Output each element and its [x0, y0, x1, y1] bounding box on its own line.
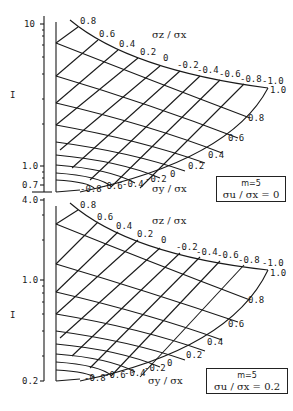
- svg-text:-0.8: -0.8: [238, 255, 260, 265]
- bottom-ytick-02: 0.2: [22, 376, 38, 386]
- bottom-ytick-4: 4.0: [22, 195, 38, 205]
- svg-text:-0.6: -0.6: [219, 69, 241, 79]
- svg-text:-0.2: -0.2: [144, 363, 166, 373]
- svg-text:-0.4: -0.4: [122, 179, 144, 189]
- top-legend-formula: σu / σx = 0: [220, 189, 282, 200]
- svg-text:0.2: 0.2: [188, 161, 204, 171]
- svg-text:1.0: 1.0: [270, 85, 286, 95]
- svg-text:0.2: 0.2: [186, 350, 202, 360]
- svg-text:0: 0: [167, 358, 172, 368]
- svg-text:0.8: 0.8: [248, 113, 264, 123]
- svg-text:0.8: 0.8: [248, 295, 264, 305]
- svg-text:0.6: 0.6: [99, 29, 115, 39]
- svg-text:0: 0: [163, 53, 168, 63]
- top-legend-m: m=5: [220, 178, 282, 189]
- svg-text:-0.8: -0.8: [240, 74, 262, 84]
- bottom-legend-box: m=5 σu / σx = 0.2: [206, 368, 288, 394]
- svg-text:1.0: 1.0: [270, 268, 286, 278]
- svg-text:0.8: 0.8: [80, 16, 96, 26]
- svg-text:-1.0: -1.0: [262, 258, 284, 268]
- svg-text:0.2: 0.2: [137, 229, 153, 239]
- svg-text:0.6: 0.6: [228, 133, 244, 143]
- svg-text:0.4: 0.4: [207, 337, 223, 347]
- svg-text:-0.4: -0.4: [196, 247, 218, 257]
- bottom-y-ticks: [40, 200, 44, 381]
- bottom-legend-formula: σu / σx = 0.2: [210, 381, 284, 392]
- bottom-labels: I 4.0 1.0 0.2 0.8 0.6 0.4 0.2 0 -0.2 -0.…: [10, 195, 286, 386]
- svg-text:0.6: 0.6: [228, 319, 244, 329]
- svg-text:-0.2: -0.2: [177, 60, 199, 70]
- svg-text:0.2: 0.2: [140, 47, 156, 57]
- top-y-title: I: [10, 90, 15, 100]
- svg-text:0: 0: [170, 169, 175, 179]
- bottom-ytick-1: 1.0: [22, 275, 38, 285]
- bottom-sigma-z-label: σz / σx: [152, 215, 187, 226]
- bottom-legend-m: m=5: [210, 370, 284, 381]
- svg-text:-0.6: -0.6: [101, 181, 123, 191]
- top-panel: [32, 16, 268, 192]
- svg-text:0.4: 0.4: [116, 221, 132, 231]
- svg-text:0.6: 0.6: [97, 212, 113, 222]
- svg-text:-0.4: -0.4: [124, 368, 146, 378]
- figure-canvas: I 10 1.0 0.7 0.8 0.6 0.4 0.2 0 -0.2 -0.4…: [0, 0, 293, 411]
- svg-text:-0.8: -0.8: [84, 373, 106, 383]
- top-legend-box: m=5 σu / σx = 0: [216, 176, 286, 202]
- svg-text:0.4: 0.4: [119, 39, 135, 49]
- svg-text:-0.6: -0.6: [104, 370, 126, 380]
- svg-text:0.4: 0.4: [208, 150, 224, 160]
- top-ytick-10: 10: [24, 19, 35, 29]
- svg-text:0: 0: [161, 235, 166, 245]
- bottom-sigma-y-label: σy / σx: [148, 375, 183, 386]
- top-sigma-y-label: σy / σx: [152, 183, 187, 194]
- svg-text:-0.8: -0.8: [80, 184, 102, 194]
- svg-text:-0.6: -0.6: [217, 250, 239, 260]
- svg-text:-0.2: -0.2: [176, 242, 198, 252]
- svg-text:-0.4: -0.4: [197, 65, 219, 75]
- svg-text:0.8: 0.8: [80, 200, 96, 210]
- bottom-y-title: I: [10, 310, 15, 320]
- top-ytick-07: 0.7: [22, 180, 38, 190]
- top-ytick-1: 1.0: [22, 161, 38, 171]
- top-sigma-z-label: σz / σx: [152, 29, 187, 40]
